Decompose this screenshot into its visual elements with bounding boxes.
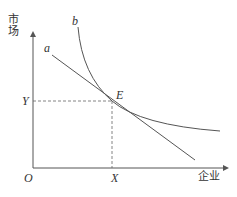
x-tick-label: X [111,172,118,184]
diagram-canvas: 市场 企业 O a b E X Y [0,0,237,197]
origin-label: O [24,172,33,184]
curve-b [78,27,220,131]
y-axis-label: 市场 [8,14,20,38]
y-tick-label: Y [22,95,29,107]
curve-b-label: b [72,15,78,27]
point-e-label: E [116,89,123,101]
curve-a-label: a [44,42,50,54]
line-a [52,55,195,160]
x-axis-label: 企业 [198,171,220,183]
